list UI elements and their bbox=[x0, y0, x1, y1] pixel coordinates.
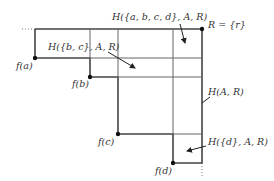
label-h-bc: H({b, c}, A, R) bbox=[47, 41, 120, 52]
staircase-diagram: H({a, b, c, d}, A, R) R = {r} H({b, c}, … bbox=[0, 0, 274, 181]
label-fb: f(b) bbox=[71, 78, 89, 89]
point-fc bbox=[116, 132, 120, 136]
label-fd: f(d) bbox=[154, 165, 172, 176]
arrow-h-d bbox=[187, 146, 206, 151]
label-h-d: H({d}, A, R) bbox=[207, 136, 268, 147]
label-h-abcd: H({a, b, c, d}, A, R) bbox=[111, 11, 207, 22]
arrow-h-ar bbox=[202, 97, 210, 103]
arrow-h-bc bbox=[108, 52, 135, 68]
label-h-ar: H(A, R) bbox=[207, 86, 244, 97]
label-fc: f(c) bbox=[97, 136, 115, 147]
label-fa: f(a) bbox=[15, 60, 33, 71]
point-r bbox=[200, 27, 204, 31]
arrow-h-abcd bbox=[180, 24, 185, 43]
point-fa bbox=[33, 56, 37, 60]
label-r-set: R = {r} bbox=[207, 19, 246, 30]
